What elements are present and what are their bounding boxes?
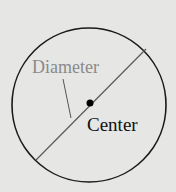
center-label: Center (87, 114, 138, 135)
circle-diagram: Diameter Center (0, 0, 176, 192)
diameter-leader-line (63, 79, 71, 118)
center-point (87, 100, 94, 107)
diameter-label: Diameter (32, 57, 99, 77)
